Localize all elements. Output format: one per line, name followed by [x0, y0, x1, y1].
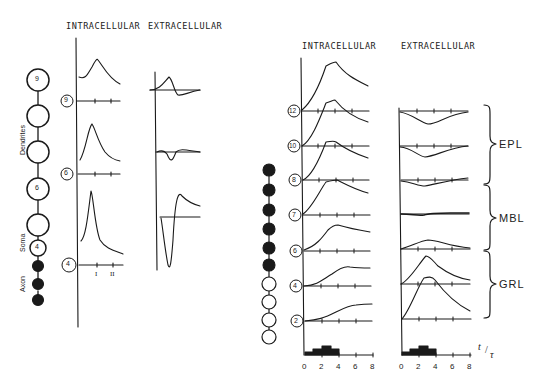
x-tick-intra-6: 6 [353, 362, 357, 371]
x-tick-extra-0: 0 [399, 362, 403, 371]
x-tick-intra-8: 8 [370, 362, 374, 371]
right-intracellular-header: INTRACELLULAR [302, 41, 376, 51]
x-tick-extra-2: 2 [416, 362, 420, 371]
dendrites-label: Dendrites [19, 125, 26, 155]
chain-label-4: 4 [35, 243, 39, 250]
x-tick-intra-0: 0 [302, 362, 306, 371]
trace-marker-6: 6 [64, 169, 68, 176]
x-tick-extra-4: 4 [433, 362, 437, 371]
x-axis-label-t: t [478, 341, 481, 352]
trace-marker-7: 7 [292, 211, 296, 218]
x-tick-extra-6: 6 [450, 362, 454, 371]
x-tick-intra-2: 2 [319, 362, 323, 371]
x-tick-extra-8: 8 [467, 362, 471, 371]
trace-marker-10: 10 [289, 142, 296, 149]
trace-marker-9: 9 [64, 96, 68, 103]
right-chain-open-compartments [0, 0, 536, 379]
trace-marker-4: 4 [293, 282, 297, 289]
right-extracellular-header: EXTRACELLULAR [401, 41, 475, 51]
left-extracellular-header: EXTRACELLULAR [148, 21, 222, 31]
axon-label: Axon [19, 276, 26, 292]
time-tick-II: II [110, 270, 115, 278]
trace-marker-12: 12 [289, 107, 296, 114]
chain-label-9: 9 [35, 75, 39, 82]
neuron-simulation-figure: INTRACELLULAR EXTRACELLULAR INTRACELLULA… [0, 0, 536, 379]
time-tick-I: I [95, 270, 97, 278]
chain-label-6: 6 [35, 184, 39, 191]
soma-label: Soma [19, 234, 26, 252]
layer-label-mbl: MBL [499, 212, 525, 224]
x-axis-label-slash: / [485, 344, 488, 355]
trace-marker-2: 2 [294, 317, 298, 324]
trace-marker-4: 4 [66, 260, 70, 267]
x-tick-intra-4: 4 [336, 362, 340, 371]
layer-label-epl: EPL [499, 138, 523, 150]
x-axis-label-tau: τ [490, 349, 494, 360]
layer-label-grl: GRL [499, 278, 525, 290]
left-intracellular-header: INTRACELLULAR [66, 21, 140, 31]
trace-marker-8: 8 [292, 176, 296, 183]
trace-marker-6: 6 [293, 247, 297, 254]
